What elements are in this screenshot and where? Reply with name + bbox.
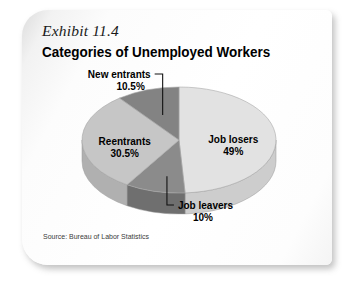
slice-label-job-losers: Job losers (208, 134, 258, 145)
source-note: Source: Bureau of Labor Statistics (43, 232, 149, 241)
slice-value-job-leavers: 10% (193, 212, 213, 223)
slice-value-job-losers: 49% (223, 146, 243, 157)
exhibit-number-label: Exhibit 11.4 (42, 22, 119, 40)
pie-chart: Job losers49%Job leavers10%Reentrants30.… (22, 62, 332, 227)
slice-label-reentrants: Reentrants (99, 136, 152, 147)
page-title: Categories of Unemployed Workers (42, 44, 270, 60)
slice-label-job-leavers: Job leavers (178, 200, 233, 211)
slice-value-reentrants: 30.5% (111, 148, 139, 159)
exhibit-card: Exhibit 11.4 Categories of Unemployed Wo… (22, 10, 332, 265)
card-content: Exhibit 11.4 Categories of Unemployed Wo… (22, 10, 332, 265)
slice-value-new-entrants: 10.5% (116, 81, 144, 92)
slice-label-new-entrants: New entrants (88, 69, 151, 80)
pie-chart-svg: Job losers49%Job leavers10%Reentrants30.… (22, 62, 332, 227)
